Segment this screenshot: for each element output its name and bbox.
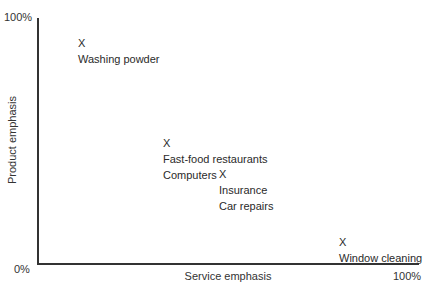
point-label: Washing powder — [78, 51, 160, 67]
y-axis-label: Product emphasis — [6, 96, 18, 184]
x-marker-icon: X — [78, 35, 160, 51]
x-marker-icon: X — [219, 166, 273, 182]
point-label: Car repairs — [219, 198, 273, 214]
origin-tick: 0% — [14, 263, 30, 275]
x-marker-icon: X — [163, 135, 268, 151]
y-tick-100: 100% — [4, 11, 32, 23]
point-label: Insurance — [219, 182, 273, 198]
x-tick-100: 100% — [393, 270, 421, 282]
data-point-window-cleaning: X Window cleaning — [339, 234, 422, 266]
point-label: Fast-food restaurants — [163, 151, 268, 167]
point-label: Window cleaning — [339, 250, 422, 266]
x-axis-label: Service emphasis — [185, 270, 272, 282]
x-marker-icon: X — [339, 234, 422, 250]
y-axis — [37, 18, 39, 264]
data-point-washing-powder: X Washing powder — [78, 35, 160, 67]
data-point-insurance-car-repairs: X Insurance Car repairs — [219, 166, 273, 214]
